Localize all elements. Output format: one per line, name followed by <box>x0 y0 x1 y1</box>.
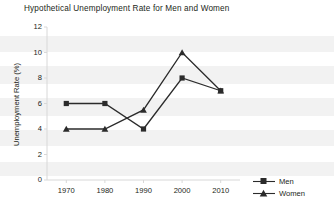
y-tick-label: 10 <box>34 49 42 57</box>
chart-figure: Hypothetical Unemployment Rate for Men a… <box>0 0 334 211</box>
data-point-marker-men <box>102 101 107 106</box>
plot-svg <box>47 27 240 180</box>
y-tick-label: 2 <box>38 151 42 159</box>
legend-label-women: Women <box>279 190 305 198</box>
data-point-marker-men <box>64 101 69 106</box>
x-tick-label: 2010 <box>212 187 229 195</box>
y-tick-label: 8 <box>38 74 42 82</box>
data-point-marker-women <box>179 49 186 55</box>
chart-legend: Men Women <box>253 177 305 198</box>
y-tick-label: 6 <box>38 100 42 108</box>
legend-swatch-square-icon <box>253 177 275 186</box>
x-tick-label: 1970 <box>58 187 75 195</box>
plot-area: 02468101219701980199020002010 <box>47 27 240 180</box>
legend-label-men: Men <box>279 178 294 186</box>
x-tick-label: 1980 <box>96 187 113 195</box>
data-point-marker-men <box>180 75 185 80</box>
y-tick-label: 0 <box>38 176 42 184</box>
data-point-marker-men <box>141 126 146 131</box>
chart-title: Hypothetical Unemployment Rate for Men a… <box>24 4 229 13</box>
x-tick-label: 2000 <box>174 187 191 195</box>
y-tick-label: 12 <box>34 23 42 31</box>
y-tick-label: 4 <box>38 125 42 133</box>
x-tick-label: 1990 <box>135 187 152 195</box>
legend-swatch-triangle-icon <box>253 189 275 198</box>
series-line-men <box>66 78 220 129</box>
legend-item-men[interactable]: Men <box>253 177 305 186</box>
data-point-marker-women <box>140 107 147 113</box>
series-line-women <box>66 53 220 130</box>
legend-item-women[interactable]: Women <box>253 189 305 198</box>
y-axis-label: Unemployment Rate (%) <box>12 45 21 165</box>
